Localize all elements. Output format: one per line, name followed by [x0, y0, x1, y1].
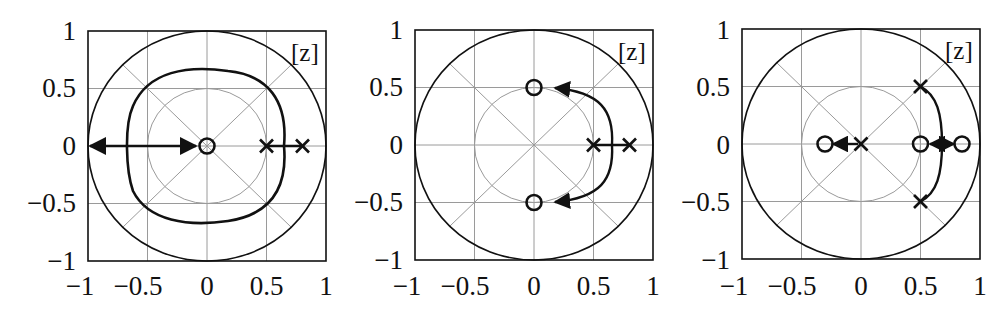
- svg-text:0.5: 0.5: [696, 72, 730, 102]
- svg-text:−1: −1: [720, 271, 749, 301]
- svg-text:0: 0: [63, 131, 77, 161]
- x-axis-ticks: −1 −0.5 0 0.5 1: [66, 271, 333, 301]
- svg-text:−0.5: −0.5: [114, 271, 163, 301]
- svg-text:0: 0: [527, 271, 541, 301]
- svg-text:−1: −1: [393, 271, 422, 301]
- plane-label: [z]: [945, 37, 973, 64]
- plane-label: [z]: [291, 39, 319, 66]
- y-axis-ticks: 1 0.5 0 −0.5 −1: [354, 15, 403, 275]
- svg-text:0.5: 0.5: [250, 271, 284, 301]
- svg-text:−1: −1: [66, 271, 95, 301]
- svg-text:0: 0: [717, 130, 731, 160]
- svg-text:0: 0: [854, 271, 868, 301]
- panel-2: [z] 1 0.5 0 −0.5 −1 −1 −0.5 0 0.5 1: [354, 15, 660, 301]
- plane-label: [z]: [618, 38, 646, 65]
- svg-text:0: 0: [200, 271, 214, 301]
- svg-text:−0.5: −0.5: [681, 187, 730, 217]
- svg-text:1: 1: [973, 271, 987, 301]
- svg-text:0.5: 0.5: [42, 73, 76, 103]
- svg-text:−0.5: −0.5: [768, 271, 817, 301]
- panel-1: [z] 1 0.5 0 −0.5 −1 −1 −0.5 0 0.5 1: [27, 16, 333, 301]
- svg-text:1: 1: [390, 15, 404, 45]
- y-axis-ticks: 1 0.5 0 −0.5 −1: [27, 16, 76, 276]
- locus-curves: [90, 69, 302, 223]
- svg-text:−0.5: −0.5: [441, 271, 490, 301]
- svg-text:0.5: 0.5: [904, 271, 938, 301]
- panel-3: [z] 1 0.5 0 −0.5 −1 −1 −0.5 0 0.5 1: [681, 15, 987, 301]
- svg-text:0.5: 0.5: [577, 271, 611, 301]
- x-axis-ticks: −1 −0.5 0 0.5 1: [720, 271, 987, 301]
- svg-text:1: 1: [717, 15, 731, 45]
- svg-text:0: 0: [390, 130, 404, 160]
- x-axis-ticks: −1 −0.5 0 0.5 1: [393, 271, 660, 301]
- svg-text:−0.5: −0.5: [354, 187, 403, 217]
- y-axis-ticks: 1 0.5 0 −0.5 −1: [681, 15, 730, 275]
- svg-text:1: 1: [319, 271, 333, 301]
- svg-text:1: 1: [63, 16, 77, 46]
- root-locus-figure: [z] 1 0.5 0 −0.5 −1 −1 −0.5 0 0.5 1: [0, 0, 1006, 322]
- svg-text:−0.5: −0.5: [27, 188, 76, 218]
- svg-text:1: 1: [646, 271, 660, 301]
- svg-text:0.5: 0.5: [369, 72, 403, 102]
